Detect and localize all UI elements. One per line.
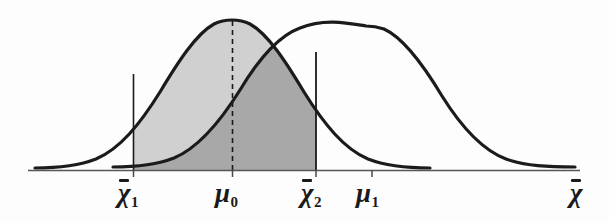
- chi-bar-glyph: χ: [570, 180, 583, 207]
- label-xbar2-text: χ: [301, 178, 314, 208]
- overbar-icon: [119, 179, 130, 182]
- label-mu1-subscript: 1: [372, 194, 380, 210]
- label-mu1: μ1: [356, 180, 379, 210]
- label-mu0-subscript: 0: [231, 194, 239, 210]
- label-xbar1-text: χ: [118, 178, 131, 208]
- label-mu0-text: μ: [215, 180, 230, 207]
- label-xbar1: χ1: [118, 180, 139, 210]
- label-xbar2-subscript: 2: [314, 194, 322, 210]
- overbar-icon: [571, 179, 582, 182]
- statistics-figure: χ1 μ0 χ2 μ1 χ: [0, 0, 609, 222]
- label-xbar2: χ2: [301, 180, 322, 210]
- label-xbar1-subscript: 1: [131, 194, 139, 210]
- chi-bar-glyph: χ: [118, 180, 131, 207]
- x-axis-label-text: χ: [570, 178, 583, 208]
- chi-bar-glyph: χ: [301, 180, 314, 207]
- label-mu0: μ0: [215, 180, 238, 210]
- x-axis-label: χ: [570, 180, 583, 207]
- overbar-icon: [302, 179, 313, 182]
- label-mu1-text: μ: [356, 180, 371, 207]
